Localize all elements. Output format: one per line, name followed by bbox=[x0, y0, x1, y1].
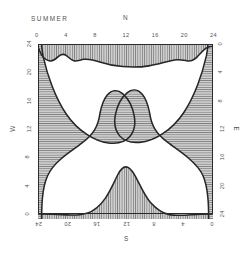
axis-tick-label: 4 bbox=[181, 220, 185, 226]
axis-tick-label: 8 bbox=[218, 99, 224, 103]
axis-tick-label: 12 bbox=[220, 125, 226, 132]
axis-tick-label: 12 bbox=[27, 125, 33, 132]
axis-tick-label: 0 bbox=[210, 220, 214, 226]
axis-tick-label: 16 bbox=[220, 154, 226, 161]
axis-tick-label: 8 bbox=[93, 33, 97, 39]
plot-area bbox=[38, 44, 213, 214]
axis-tick-label: 0 bbox=[218, 42, 224, 46]
axis-tick-label: 20 bbox=[181, 33, 188, 39]
axis-tick-label: 4 bbox=[218, 70, 224, 74]
axis-tick-label: 24 bbox=[220, 210, 226, 217]
axis-tick-label: 20 bbox=[27, 69, 33, 76]
compass-label-west: W bbox=[10, 125, 16, 132]
axis-tick-label: 16 bbox=[152, 33, 159, 39]
axis-tick-label: 20 bbox=[64, 220, 71, 226]
axis-tick-label: 4 bbox=[25, 184, 31, 188]
shaded-region-south bbox=[38, 167, 213, 219]
shaded-region-north bbox=[38, 44, 213, 67]
axis-tick-label: 24 bbox=[35, 220, 42, 226]
axis-tick-label: 0 bbox=[35, 33, 39, 39]
axis-tick-label: 16 bbox=[27, 97, 33, 104]
season-label: SUMMER bbox=[31, 16, 68, 22]
axis-tick-label: 8 bbox=[25, 155, 31, 159]
axis-tick-label: 24 bbox=[210, 33, 217, 39]
axis-tick-label: 0 bbox=[25, 212, 31, 216]
axis-tick-label: 4 bbox=[64, 33, 68, 39]
axis-tick-label: 20 bbox=[220, 182, 226, 189]
axis-tick-label: 12 bbox=[123, 33, 130, 39]
shadow-mask-plot bbox=[38, 44, 213, 219]
compass-label-south: S bbox=[124, 236, 129, 242]
axis-tick-label: 24 bbox=[27, 40, 33, 47]
compass-label-east: E bbox=[232, 127, 238, 132]
axis-tick-label: 16 bbox=[93, 220, 100, 226]
compass-label-north: N bbox=[123, 15, 129, 21]
axis-tick-label: 12 bbox=[123, 220, 130, 226]
axis-tick-label: 8 bbox=[152, 220, 156, 226]
